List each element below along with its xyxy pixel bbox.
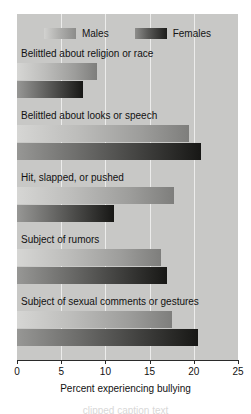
legend-entry-males: Males [44, 28, 109, 39]
bar-female [17, 267, 167, 284]
bar-fill-female [17, 267, 167, 284]
bar-male [17, 249, 161, 266]
legend-swatch-males-icon [44, 28, 76, 39]
x-tick-mark [17, 360, 18, 364]
x-tick-label: 0 [14, 366, 20, 377]
bar-fill-male [17, 125, 189, 142]
bar-female [17, 81, 83, 98]
bar-female [17, 329, 198, 346]
bar-fill-male [17, 249, 161, 266]
x-axis-title: Percent experiencing bullying [0, 383, 251, 394]
bar-group: Belittled about looks or speech [17, 108, 238, 170]
x-axis-line [17, 360, 238, 361]
chart-figure: Males Females Belittled about religion o… [0, 0, 251, 414]
category-label: Subject of rumors [21, 232, 99, 247]
bar-female [17, 143, 201, 160]
bar-group: Subject of rumors [17, 232, 238, 294]
chart-legend: Males Females [17, 25, 238, 41]
bar-male [17, 63, 97, 80]
bar-fill-female [17, 205, 114, 222]
category-label: Belittled about religion or race [21, 46, 153, 61]
clipped-caption: clipped caption text [0, 405, 251, 414]
bar-fill-male [17, 63, 97, 80]
bar-groups: Belittled about religion or raceBelittle… [17, 46, 238, 356]
bar-male [17, 125, 189, 142]
bar-fill-female [17, 143, 201, 160]
legend-label-females: Females [173, 28, 211, 39]
x-tick-mark [150, 360, 151, 364]
x-tick-label: 15 [144, 366, 155, 377]
x-tick-label: 20 [188, 366, 199, 377]
bar-fill-female [17, 81, 83, 98]
bar-fill-male [17, 311, 172, 328]
legend-swatch-females-icon [135, 28, 167, 39]
bar-group: Hit, slapped, or pushed [17, 170, 238, 232]
category-label: Subject of sexual comments or gestures [21, 294, 199, 309]
bar-male [17, 187, 174, 204]
legend-label-males: Males [82, 28, 109, 39]
bar-fill-male [17, 187, 174, 204]
plot-area: Males Females Belittled about religion o… [17, 14, 238, 360]
bar-male [17, 311, 172, 328]
bar-group: Subject of sexual comments or gestures [17, 294, 238, 356]
x-tick-mark [105, 360, 106, 364]
category-label: Hit, slapped, or pushed [21, 170, 124, 185]
bar-group: Belittled about religion or race [17, 46, 238, 108]
x-tick-mark [61, 360, 62, 364]
category-label: Belittled about looks or speech [21, 108, 157, 123]
bar-fill-female [17, 329, 198, 346]
x-tick-mark [238, 360, 239, 364]
x-tick-label: 25 [232, 366, 243, 377]
x-tick-mark [194, 360, 195, 364]
x-tick-label: 5 [58, 366, 64, 377]
legend-entry-females: Females [135, 28, 211, 39]
x-tick-label: 10 [100, 366, 111, 377]
bar-female [17, 205, 114, 222]
